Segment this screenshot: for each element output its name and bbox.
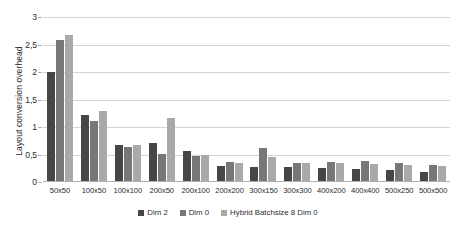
x-axis-tick-label: 200x100: [179, 186, 213, 195]
bar[interactable]: [250, 167, 258, 182]
bar[interactable]: [235, 163, 243, 182]
bar[interactable]: [293, 163, 301, 182]
bar[interactable]: [429, 165, 437, 182]
x-axis-tick-label: 400x200: [314, 186, 348, 195]
y-axis-tick-label: 2,5: [9, 40, 37, 50]
y-axis-tick-label: 1,5: [9, 95, 37, 105]
bar-group: [280, 17, 314, 182]
bar-group: [179, 17, 213, 182]
tick-mark: [38, 100, 42, 101]
legend-swatch-icon: [221, 210, 227, 216]
x-axis-labels: 50x50100x50100x100200x50200x100200x20030…: [43, 186, 450, 195]
bar[interactable]: [284, 167, 292, 182]
x-axis-tick-label: 300x300: [280, 186, 314, 195]
axis-baseline: [43, 181, 450, 182]
bar[interactable]: [90, 121, 98, 182]
bar[interactable]: [361, 161, 369, 182]
bar[interactable]: [65, 35, 73, 182]
bar[interactable]: [259, 148, 267, 182]
legend-swatch-icon: [138, 210, 144, 216]
legend-label: Dim 2: [147, 208, 167, 217]
bar[interactable]: [217, 166, 225, 183]
x-axis-tick-label: 500x250: [382, 186, 416, 195]
legend-item[interactable]: Dim 2: [138, 208, 167, 217]
bar[interactable]: [201, 155, 209, 182]
bar-group: [348, 17, 382, 182]
y-axis-tick-label: 0: [9, 177, 37, 187]
x-axis-tick-label: 200x200: [213, 186, 247, 195]
x-axis-tick-label: 300x150: [247, 186, 281, 195]
x-axis-tick-label: 50x50: [43, 186, 77, 195]
bar-group: [247, 17, 281, 182]
plot-area: 00,511,522,53: [43, 17, 450, 182]
y-axis-tick-label: 2: [9, 67, 37, 77]
bar[interactable]: [183, 151, 191, 182]
bar[interactable]: [158, 154, 166, 182]
tick-mark: [38, 155, 42, 156]
bar[interactable]: [370, 164, 378, 182]
bar-group: [416, 17, 450, 182]
legend-item[interactable]: Hybrid Batchsize 8 Dim 0: [221, 208, 318, 217]
x-axis-tick-label: 400x400: [348, 186, 382, 195]
bar[interactable]: [81, 115, 89, 182]
bar[interactable]: [268, 157, 276, 182]
bar-group: [77, 17, 111, 182]
y-axis-tick-label: 1: [9, 122, 37, 132]
bar-group: [382, 17, 416, 182]
y-axis-tick-label: 0,5: [9, 150, 37, 160]
bar[interactable]: [327, 162, 335, 182]
bar[interactable]: [133, 145, 141, 182]
chart-legend: Dim 2Dim 0Hybrid Batchsize 8 Dim 0: [0, 208, 456, 217]
bar-groups: [43, 17, 450, 182]
legend-swatch-icon: [180, 210, 186, 216]
tick-mark: [38, 45, 42, 46]
bar[interactable]: [318, 168, 326, 182]
x-axis-tick-label: 200x50: [145, 186, 179, 195]
tick-mark: [38, 127, 42, 128]
y-axis-tick-label: 3: [9, 12, 37, 22]
chart-container: Layout conversion overhead 00,511,522,53…: [0, 0, 456, 232]
x-axis-tick-label: 100x50: [77, 186, 111, 195]
bar[interactable]: [56, 40, 64, 182]
bar[interactable]: [404, 165, 412, 182]
bar[interactable]: [124, 147, 132, 182]
bar[interactable]: [47, 72, 55, 182]
bar-group: [314, 17, 348, 182]
bar[interactable]: [115, 145, 123, 182]
tick-mark: [38, 72, 42, 73]
bar[interactable]: [302, 163, 310, 182]
bar[interactable]: [192, 156, 200, 182]
bar-group: [111, 17, 145, 182]
tick-mark: [38, 17, 42, 18]
bar[interactable]: [438, 166, 446, 183]
bar[interactable]: [149, 143, 157, 182]
x-axis-tick-label: 100x100: [111, 186, 145, 195]
bar[interactable]: [167, 118, 175, 182]
legend-item[interactable]: Dim 0: [180, 208, 209, 217]
legend-label: Dim 0: [189, 208, 209, 217]
bar-group: [43, 17, 77, 182]
bar[interactable]: [99, 111, 107, 182]
bar[interactable]: [395, 163, 403, 182]
bar-group: [145, 17, 179, 182]
legend-label: Hybrid Batchsize 8 Dim 0: [230, 208, 318, 217]
bar[interactable]: [226, 162, 234, 182]
bar[interactable]: [336, 163, 344, 182]
bar-group: [213, 17, 247, 182]
x-axis-tick-label: 500x500: [416, 186, 450, 195]
tick-mark: [38, 182, 42, 183]
